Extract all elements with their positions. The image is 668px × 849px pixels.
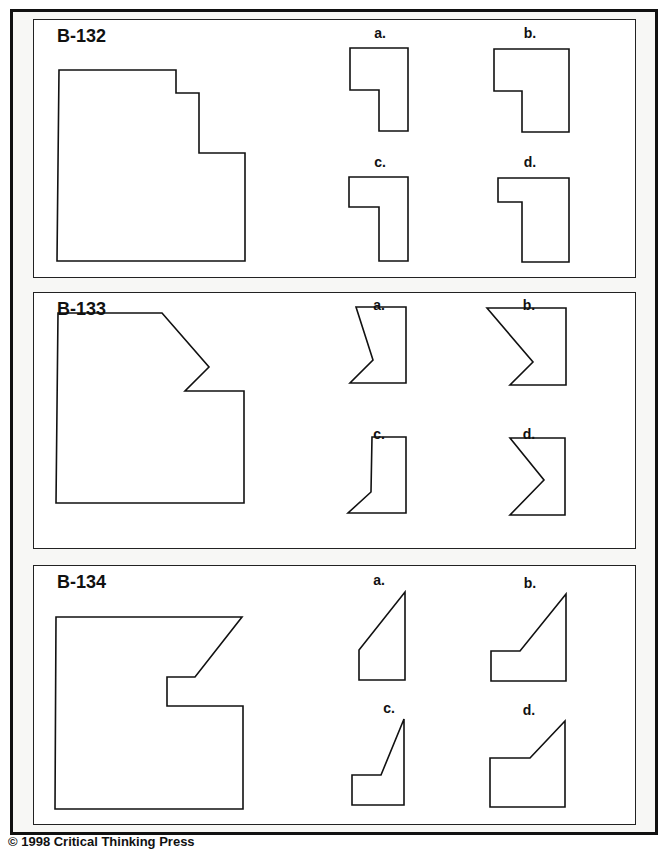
option-c-label: c. <box>374 154 386 170</box>
main-shape <box>57 70 245 261</box>
option-b-label: b. <box>524 25 536 41</box>
option-b-shape <box>494 49 569 132</box>
option-d-shape <box>490 721 565 807</box>
option-a-label: a. <box>373 572 385 588</box>
option-c-shape <box>348 437 406 513</box>
problem-panel-b132: B-132 a. b. c. d. <box>33 19 636 278</box>
option-b-label: b. <box>523 297 535 313</box>
problem-panel-b133: B-133 a. b. c. d. <box>33 292 636 549</box>
option-a-label: a. <box>374 25 386 41</box>
option-d-shape <box>510 438 565 515</box>
copyright-footer: © 1998 Critical Thinking Press <box>8 834 195 849</box>
option-d-shape <box>498 178 569 262</box>
option-c-shape <box>349 177 408 261</box>
option-a-shape <box>350 307 406 383</box>
option-a-shape <box>350 48 408 131</box>
option-a-label: a. <box>373 297 385 313</box>
option-c-label: c. <box>373 426 385 442</box>
option-b-label: b. <box>524 575 536 591</box>
shape-figures <box>34 566 635 824</box>
option-d-label: d. <box>524 154 536 170</box>
shape-figures <box>34 20 635 277</box>
problem-panel-b134: B-134 a. b. c. d. <box>33 565 636 825</box>
shape-figures <box>34 293 635 548</box>
option-b-shape <box>491 594 566 681</box>
option-b-shape <box>487 308 566 385</box>
option-c-shape <box>352 719 404 805</box>
main-shape <box>56 313 244 503</box>
option-a-shape <box>359 592 405 680</box>
option-d-label: d. <box>523 702 535 718</box>
option-c-label: c. <box>383 700 395 716</box>
option-d-label: d. <box>523 426 535 442</box>
main-shape <box>55 617 243 809</box>
